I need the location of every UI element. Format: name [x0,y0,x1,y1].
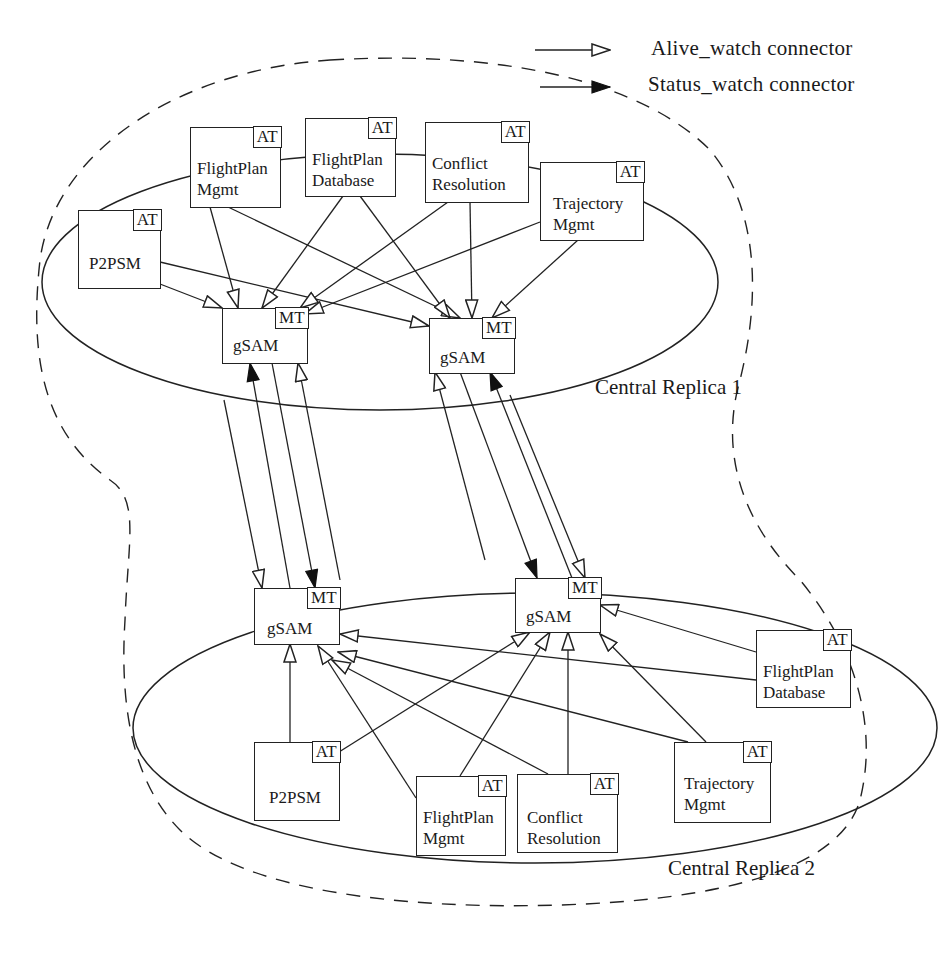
node-label: Conflict Resolution [432,153,506,195]
node-label: gSAM [233,335,278,356]
r2-node-flightplan-mgmt[interactable]: AT FlightPlan Mgmt [416,776,506,856]
node-label: gSAM [440,347,485,368]
node-label: FlightPlan Mgmt [423,807,494,849]
r1-node-flightplan-mgmt[interactable]: AT FlightPlan Mgmt [190,127,281,208]
legend-alive-watch: Alive_watch connector [651,36,853,61]
node-label: FlightPlan Database [312,149,383,191]
node-label: Conflict Resolution [527,807,601,849]
node-label: P2PSM [269,787,321,808]
at-tag: AT [616,161,645,183]
at-tag: AT [312,741,341,763]
at-tag: AT [478,775,507,797]
label-central-replica-2: Central Replica 2 [668,856,815,881]
node-label: FlightPlan Database [763,661,834,703]
at-tag: AT [501,121,530,143]
r1-node-gsam-left[interactable]: MT gSAM [222,308,308,364]
r2-node-gsam-left[interactable]: MT gSAM [254,588,340,645]
at-tag: AT [368,117,397,139]
r2-node-p2psm[interactable]: AT P2PSM [254,742,340,821]
node-label: gSAM [267,618,312,639]
r1-node-trajectory-mgmt[interactable]: AT Trajectory Mgmt [540,162,644,241]
node-label: Trajectory Mgmt [553,193,623,235]
mt-tag: MT [307,587,341,609]
r1-node-flightplan-database[interactable]: AT FlightPlan Database [305,118,396,197]
r2-node-conflict-resolution[interactable]: AT Conflict Resolution [517,774,618,853]
node-label: FlightPlan Mgmt [197,158,268,200]
r1-node-gsam-right[interactable]: MT gSAM [429,318,515,374]
r2-node-trajectory-mgmt[interactable]: AT Trajectory Mgmt [674,742,771,823]
mt-tag: MT [568,577,602,599]
label-central-replica-1: Central Replica 1 [595,375,742,400]
legend-status-watch: Status_watch connector [648,72,855,97]
mt-tag: MT [482,317,516,339]
at-tag: AT [133,209,162,231]
r1-node-p2psm[interactable]: AT P2PSM [78,210,161,289]
node-label: gSAM [526,606,571,627]
node-label: Trajectory Mgmt [684,773,754,815]
at-tag: AT [590,773,619,795]
r1-node-conflict-resolution[interactable]: AT Conflict Resolution [425,122,529,203]
at-tag: AT [823,629,852,651]
r2-node-gsam-right[interactable]: MT gSAM [515,578,601,633]
at-tag: AT [743,741,772,763]
at-tag: AT [253,126,282,148]
mt-tag: MT [275,307,309,329]
node-label: P2PSM [89,253,141,274]
r2-node-flightplan-database[interactable]: AT FlightPlan Database [756,630,851,708]
